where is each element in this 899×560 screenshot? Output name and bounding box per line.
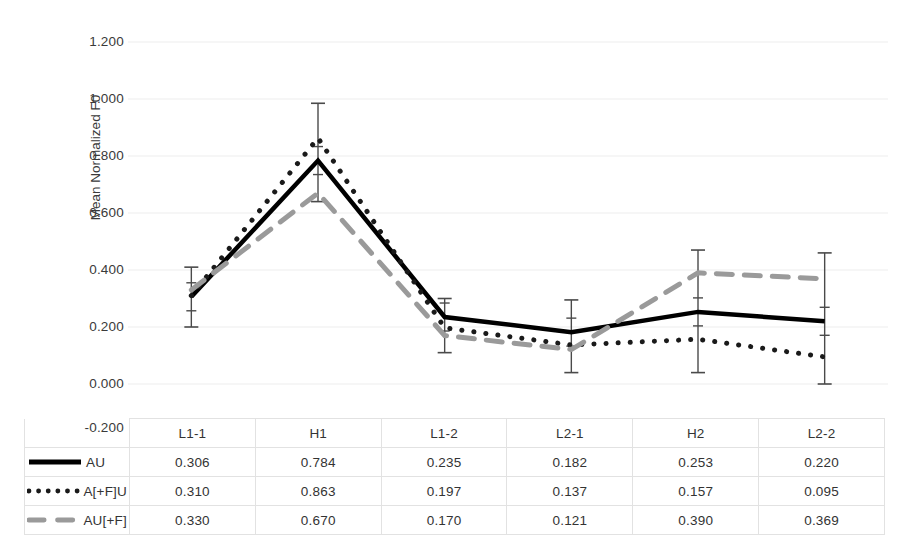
legend-swatch-solid <box>27 456 83 468</box>
table-column-header: L2-1 <box>507 419 633 448</box>
table-cell: 0.784 <box>255 448 381 477</box>
error-bars <box>184 103 831 384</box>
legend-label: A[+F]U <box>83 484 127 499</box>
y-tick-label: 0.200 <box>54 320 124 334</box>
table-cell: 0.220 <box>759 448 885 477</box>
table-cell: 0.121 <box>507 506 633 535</box>
error-bar <box>438 299 452 353</box>
data-table-container: L1-1H1L1-2L2-1H2L2-2AU0.3060.7840.2350.1… <box>24 418 885 535</box>
y-tick-label: 0.000 <box>54 377 124 391</box>
table-column-header: L2-2 <box>759 419 885 448</box>
table-cell: 0.170 <box>381 506 507 535</box>
table-cell: 0.310 <box>130 477 256 506</box>
series-line-AU <box>191 161 824 333</box>
table-row: AU[+F]0.3300.6700.1700.1210.3900.369 <box>25 506 885 535</box>
chart-screenshot: 1.200 1.000 0.800 0.600 0.400 0.200 0.00… <box>0 0 899 560</box>
legend-cell-AU: AU <box>25 448 130 477</box>
table-cell: 0.330 <box>130 506 256 535</box>
table-row: AU0.3060.7840.2350.1820.2530.220 <box>25 448 885 477</box>
table-cell: 0.137 <box>507 477 633 506</box>
table-cell: 0.369 <box>759 506 885 535</box>
legend-label: AU <box>86 455 105 470</box>
table-cell: 0.670 <box>255 506 381 535</box>
series-lines <box>191 138 824 357</box>
table-column-header: H2 <box>633 419 759 448</box>
table-cell: 0.863 <box>255 477 381 506</box>
table-row: A[+F]U0.3100.8630.1970.1370.1570.095 <box>25 477 885 506</box>
table-cell: 0.197 <box>381 477 507 506</box>
y-tick-label: 1.200 <box>54 35 124 49</box>
table-cell: 0.095 <box>759 477 885 506</box>
table-cell: 0.390 <box>633 506 759 535</box>
data-table: L1-1H1L1-2L2-1H2L2-2AU0.3060.7840.2350.1… <box>24 418 885 535</box>
error-bar <box>311 103 325 201</box>
table-cell: 0.182 <box>507 448 633 477</box>
y-tick-label: 0.400 <box>54 263 124 277</box>
table-header-row: L1-1H1L1-2L2-1H2L2-2 <box>25 419 885 448</box>
legend-cell-A[+F]U: A[+F]U <box>25 477 130 506</box>
chart-svg <box>128 42 888 384</box>
table-cell: 0.235 <box>381 448 507 477</box>
y-axis: 1.200 1.000 0.800 0.600 0.400 0.200 0.00… <box>48 0 124 430</box>
table-column-header: L1-2 <box>381 419 507 448</box>
legend-label: AU[+F] <box>83 513 127 528</box>
y-axis-label: Mean Normalized F0 <box>88 78 103 238</box>
legend-swatch-dotted <box>27 485 80 497</box>
error-bar <box>818 253 832 384</box>
error-bar <box>564 300 578 373</box>
table-column-header: L1-1 <box>130 419 256 448</box>
legend-cell-AU[+F]: AU[+F] <box>25 506 130 535</box>
legend-swatch-dashed <box>27 514 80 526</box>
table-corner-cell <box>25 419 130 448</box>
table-cell: 0.306 <box>130 448 256 477</box>
table-cell: 0.253 <box>633 448 759 477</box>
plot-area <box>128 42 888 384</box>
table-column-header: H1 <box>255 419 381 448</box>
gridlines <box>128 42 888 384</box>
table-cell: 0.157 <box>633 477 759 506</box>
